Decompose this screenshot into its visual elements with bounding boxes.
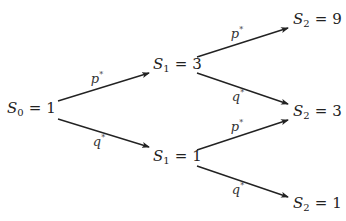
equals-sign: = bbox=[175, 147, 188, 165]
node-s2-ud: S2=3 bbox=[293, 104, 342, 121]
node-value: 1 bbox=[332, 194, 342, 212]
node-var: S bbox=[153, 147, 163, 165]
node-value: 9 bbox=[332, 10, 342, 28]
node-value: 3 bbox=[332, 102, 342, 120]
node-s2-dd: S2=1 bbox=[293, 196, 342, 213]
node-s1-down: S1=1 bbox=[153, 149, 202, 166]
equals-sign: = bbox=[175, 55, 188, 73]
edge-label-s1up-up: p* bbox=[231, 26, 243, 40]
prob-star: * bbox=[101, 133, 105, 142]
node-var: S bbox=[153, 55, 163, 73]
equals-sign: = bbox=[315, 194, 328, 212]
node-value: 1 bbox=[46, 99, 56, 117]
equals-sign: = bbox=[315, 10, 328, 28]
node-subscript: 2 bbox=[303, 202, 309, 213]
prob-star: * bbox=[99, 70, 103, 79]
edge-s0-to-s1-up bbox=[58, 73, 149, 101]
node-subscript: 2 bbox=[303, 110, 309, 121]
edge-label-s1down-down: q* bbox=[232, 182, 244, 196]
node-var: S bbox=[293, 10, 303, 28]
edge-label-s1down-up: p* bbox=[231, 119, 243, 133]
node-subscript: 0 bbox=[17, 107, 23, 118]
prob-star: * bbox=[239, 118, 243, 127]
node-var: S bbox=[293, 194, 303, 212]
node-subscript: 2 bbox=[303, 18, 309, 29]
prob-star: * bbox=[240, 181, 244, 190]
node-value: 3 bbox=[192, 55, 202, 73]
node-var: S bbox=[293, 102, 303, 120]
node-s2-uu: S2=9 bbox=[293, 12, 342, 29]
node-var: S bbox=[7, 99, 17, 117]
binomial-tree-diagram: S0=1 S1=3 S1=1 S2=9 S2=3 S2=1 p* q* p* q… bbox=[0, 0, 346, 221]
node-subscript: 1 bbox=[163, 63, 169, 74]
prob-star: * bbox=[239, 25, 243, 34]
node-s1-up: S1=3 bbox=[153, 57, 202, 74]
equals-sign: = bbox=[315, 102, 328, 120]
equals-sign: = bbox=[29, 99, 42, 117]
edge-label-s0-up: p* bbox=[91, 71, 103, 85]
node-subscript: 1 bbox=[163, 155, 169, 166]
node-s0: S0=1 bbox=[7, 101, 56, 118]
prob-star: * bbox=[240, 88, 244, 97]
edge-label-s0-down: q* bbox=[93, 134, 105, 148]
edge-label-s1up-down: q* bbox=[232, 89, 244, 103]
node-value: 1 bbox=[192, 147, 202, 165]
